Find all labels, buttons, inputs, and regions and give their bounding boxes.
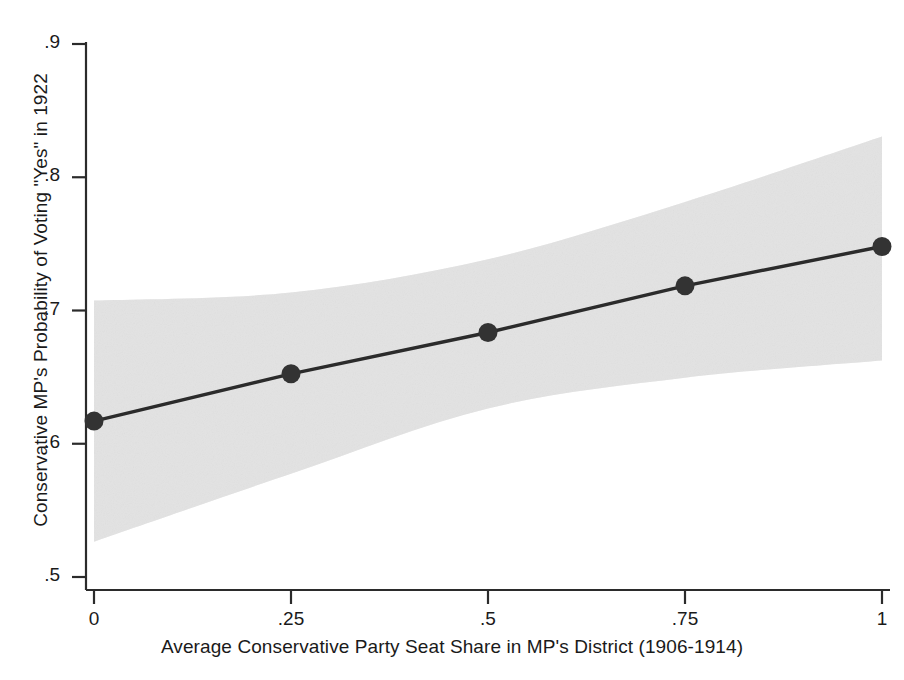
data-point-marker — [479, 323, 498, 342]
x-tick-label: 0 — [64, 608, 124, 630]
y-axis-title: Conservative MP's Probability of Voting … — [30, 0, 56, 610]
x-tick-label: .5 — [458, 608, 518, 630]
data-point-marker — [873, 237, 892, 256]
data-point-marker — [85, 412, 104, 431]
chart-figure: .9.8.7.6.5 0.25.5.751 Conservative MP's … — [0, 0, 904, 680]
x-tick-label: .75 — [655, 608, 715, 630]
plot-canvas — [0, 0, 904, 680]
x-tick-label: .25 — [261, 608, 321, 630]
x-axis-title: Average Conservative Party Seat Share in… — [0, 636, 904, 658]
x-tick-label: 1 — [852, 608, 904, 630]
data-point-marker — [676, 276, 695, 295]
data-point-marker — [282, 364, 301, 383]
